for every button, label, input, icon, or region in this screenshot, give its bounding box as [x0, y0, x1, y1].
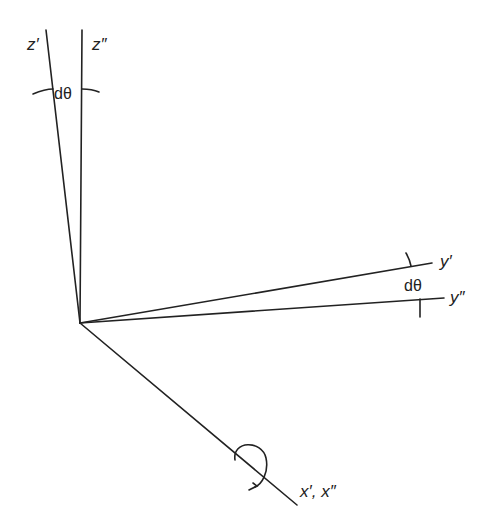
angle-tick-y-prime	[406, 253, 411, 266]
label-y-prime: y′	[439, 252, 453, 271]
label-dtheta-right: dθ	[404, 277, 422, 294]
label-z-double-prime: z″	[91, 35, 108, 54]
angle-tick-z-prime	[33, 89, 53, 94]
axes-diagram: z′ z″ dθ y′ dθ y″ x′, x″	[0, 0, 496, 526]
label-y-double-prime: y″	[449, 288, 466, 307]
label-z-prime: z′	[26, 35, 40, 54]
label-dtheta-top: dθ	[54, 85, 72, 102]
y-double-prime-axis	[80, 298, 444, 323]
angle-tick-z-double-prime	[82, 89, 99, 92]
z-double-prime-axis	[80, 30, 82, 323]
y-prime-axis	[80, 263, 432, 323]
label-x-axes: x′, x″	[299, 482, 337, 501]
rotation-arrowhead-icon	[249, 483, 257, 490]
z-prime-axis	[46, 30, 80, 323]
